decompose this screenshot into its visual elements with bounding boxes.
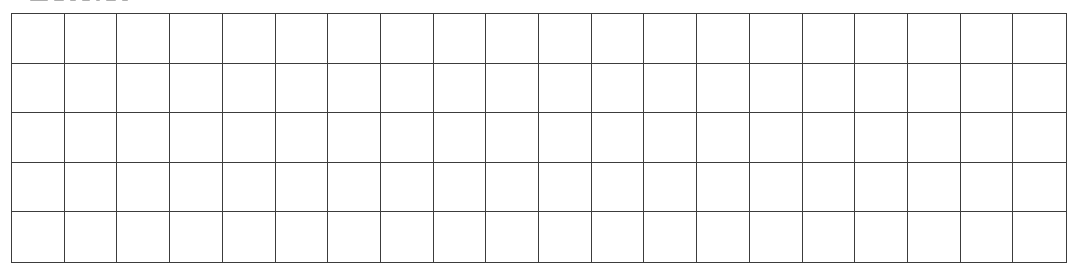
grid-cell — [750, 113, 803, 163]
grid-cell — [117, 163, 170, 213]
grid-cell — [644, 64, 697, 114]
grid-cell — [381, 163, 434, 213]
heading-fragment — [54, 0, 64, 1]
grid-cell — [65, 163, 118, 213]
grid-cell — [697, 64, 750, 114]
grid-cell — [328, 212, 381, 262]
heading-fragment — [30, 0, 48, 1]
grid-cell — [1013, 113, 1066, 163]
grid-cell — [276, 212, 329, 262]
grid-cell — [170, 64, 223, 114]
heading-fragment — [96, 0, 100, 1]
grid-cell — [855, 113, 908, 163]
grid-cell — [908, 113, 961, 163]
heading-fragment — [122, 0, 128, 1]
grid-cell — [750, 212, 803, 262]
grid-cell — [65, 64, 118, 114]
grid-cell — [750, 163, 803, 213]
grid-cell — [12, 163, 65, 213]
grid-cell — [486, 113, 539, 163]
grid-cell — [592, 212, 645, 262]
grid-cell — [539, 113, 592, 163]
grid-cell — [434, 113, 487, 163]
grid-cell — [961, 163, 1014, 213]
empty-grid-table — [11, 13, 1067, 263]
grid-cell — [276, 163, 329, 213]
grid-cell — [434, 64, 487, 114]
grid-cell — [65, 113, 118, 163]
grid-cell — [117, 113, 170, 163]
grid-cell — [65, 212, 118, 262]
heading-fragment — [70, 0, 76, 1]
grid-cell — [855, 163, 908, 213]
grid-cell — [276, 113, 329, 163]
grid-cell — [486, 14, 539, 64]
grid-cell — [1013, 14, 1066, 64]
grid-cell — [803, 212, 856, 262]
grid-cell — [223, 212, 276, 262]
clipped-heading — [30, 0, 230, 3]
grid-cell — [1013, 64, 1066, 114]
grid-cell — [908, 212, 961, 262]
grid-cell — [592, 64, 645, 114]
heading-descender-marks — [30, 0, 128, 1]
grid-cell — [486, 212, 539, 262]
grid-cell — [328, 64, 381, 114]
grid-cell — [855, 212, 908, 262]
grid-cell — [117, 64, 170, 114]
grid-cell — [223, 113, 276, 163]
grid-cell — [170, 163, 223, 213]
grid-cell — [276, 14, 329, 64]
grid-cell — [276, 64, 329, 114]
grid-cell — [170, 212, 223, 262]
grid-cell — [697, 14, 750, 64]
grid-cell — [592, 14, 645, 64]
grid-cell — [961, 212, 1014, 262]
grid-cell — [381, 113, 434, 163]
grid-cell — [539, 14, 592, 64]
grid-cell — [170, 113, 223, 163]
grid-cell — [961, 14, 1014, 64]
grid-cell — [434, 212, 487, 262]
grid-cell — [855, 64, 908, 114]
grid-cell — [592, 113, 645, 163]
grid-cell — [434, 14, 487, 64]
grid-cell — [1013, 163, 1066, 213]
grid-cell — [223, 163, 276, 213]
grid-cell — [65, 14, 118, 64]
grid-cell — [855, 14, 908, 64]
grid-cell — [803, 64, 856, 114]
grid-cell — [1013, 212, 1066, 262]
grid-cell — [961, 64, 1014, 114]
grid-cell — [908, 163, 961, 213]
grid-cell — [328, 163, 381, 213]
grid-cell — [697, 113, 750, 163]
grid-cell — [381, 14, 434, 64]
grid-cell — [697, 163, 750, 213]
grid-cell — [328, 14, 381, 64]
grid-cell — [539, 163, 592, 213]
grid-cell — [644, 113, 697, 163]
grid-cell — [381, 64, 434, 114]
grid-cell — [644, 212, 697, 262]
grid-cell — [328, 113, 381, 163]
grid-cell — [12, 212, 65, 262]
grid-cell — [12, 64, 65, 114]
grid-cell — [434, 163, 487, 213]
grid-cell — [12, 14, 65, 64]
grid-cell — [961, 113, 1014, 163]
grid-cell — [486, 163, 539, 213]
grid-cell — [486, 64, 539, 114]
grid-cell — [117, 14, 170, 64]
grid-cell — [908, 64, 961, 114]
grid-cell — [697, 212, 750, 262]
grid-cell — [750, 14, 803, 64]
grid-cell — [12, 113, 65, 163]
grid-cell — [750, 64, 803, 114]
grid-cell — [170, 14, 223, 64]
grid-cell — [908, 14, 961, 64]
grid-cell — [381, 212, 434, 262]
grid-cell — [803, 163, 856, 213]
heading-fragment — [82, 0, 90, 1]
grid-cell — [644, 163, 697, 213]
